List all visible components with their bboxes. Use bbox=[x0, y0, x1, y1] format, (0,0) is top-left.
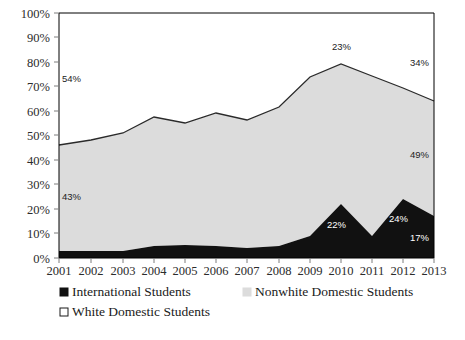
x-axis-label: 2013 bbox=[422, 264, 447, 278]
callout-nonwhite-2001: 43% bbox=[62, 191, 82, 202]
legend-swatch-international-students bbox=[60, 288, 68, 296]
legend-label-nonwhite-domestic-students: Nonwhite Domestic Students bbox=[255, 284, 413, 299]
legend-swatch-white-domestic-students bbox=[60, 308, 68, 316]
callout-intl-2013: 17% bbox=[410, 232, 430, 243]
stacked-area-chart: 100% 90% 80% 70% 60% 50% 40% 30% 20% 10%… bbox=[0, 0, 465, 340]
y-axis-label: 70% bbox=[27, 80, 50, 94]
callout-white-2001: 54% bbox=[62, 73, 82, 84]
x-axis-label: 2008 bbox=[267, 264, 292, 278]
x-axis-label: 2012 bbox=[391, 264, 416, 278]
y-axis-label: 90% bbox=[27, 31, 50, 45]
callout-intl-2012: 24% bbox=[389, 213, 409, 224]
legend-swatch-nonwhite-domestic-students bbox=[243, 288, 251, 296]
y-axis-label: 10% bbox=[27, 227, 50, 241]
y-axis-label: 50% bbox=[27, 129, 50, 143]
legend: International Students Nonwhite Domestic… bbox=[60, 284, 413, 319]
legend-label-international-students: International Students bbox=[72, 284, 191, 299]
chart-canvas: 100% 90% 80% 70% 60% 50% 40% 30% 20% 10%… bbox=[0, 0, 465, 340]
x-axis-label: 2001 bbox=[47, 264, 72, 278]
x-axis-label: 2006 bbox=[204, 264, 229, 278]
legend-label-white-domestic-students: White Domestic Students bbox=[72, 304, 210, 319]
x-axis-label: 2005 bbox=[173, 264, 198, 278]
x-axis-label: 2003 bbox=[111, 264, 136, 278]
callout-nonwhite-2013: 49% bbox=[410, 149, 430, 160]
y-axis-label: 40% bbox=[27, 154, 50, 168]
callout-intl-2010: 22% bbox=[327, 219, 347, 230]
x-axis-label: 2009 bbox=[298, 264, 323, 278]
y-axis-label: 100% bbox=[21, 7, 50, 21]
callout-white-2013: 34% bbox=[410, 57, 430, 68]
x-axis-label: 2004 bbox=[142, 264, 168, 278]
x-axis-label: 2011 bbox=[360, 264, 385, 278]
y-axis-label: 60% bbox=[27, 105, 50, 119]
x-axis-label: 2002 bbox=[79, 264, 104, 278]
x-axis-label: 2007 bbox=[235, 264, 260, 278]
y-axis-label: 80% bbox=[27, 56, 50, 70]
y-axis-label: 30% bbox=[27, 178, 50, 192]
callout-white-2010: 23% bbox=[332, 41, 352, 52]
x-axis-label: 2010 bbox=[329, 264, 354, 278]
y-axis-label: 20% bbox=[27, 203, 50, 217]
